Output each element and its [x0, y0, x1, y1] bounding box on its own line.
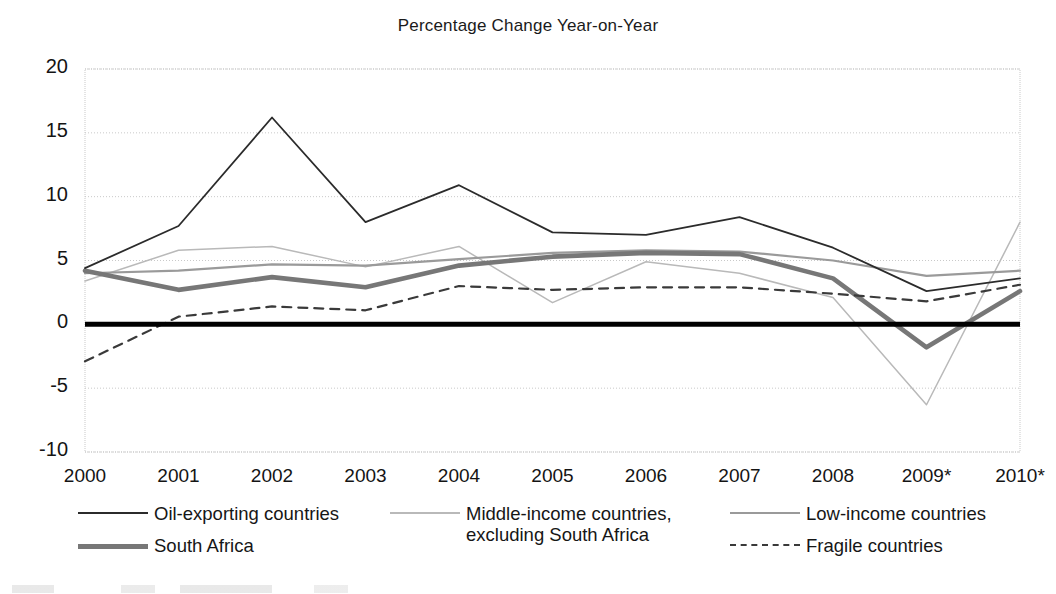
x-tick-label: 2010*: [977, 465, 1056, 487]
legend-label-low_income: Low-income countries: [806, 503, 986, 524]
legend-column-3: Low-income countriesFragile countries: [730, 503, 986, 567]
x-tick-label: 2003: [323, 465, 409, 487]
x-tick-label: 2008: [790, 465, 876, 487]
x-tick-label: 2000: [42, 465, 128, 487]
y-tick-label: 10: [6, 183, 68, 206]
legend-column-1: Oil-exporting countriesSouth Africa: [78, 503, 339, 567]
legend-item-low_income[interactable]: Low-income countries: [730, 503, 986, 531]
x-tick-label: 2007: [697, 465, 783, 487]
chart-figure: Percentage Change Year-on-Year 20151050-…: [0, 0, 1056, 594]
y-tick-label: 0: [6, 310, 68, 333]
chart-legend: Oil-exporting countriesSouth Africa Midd…: [60, 503, 1056, 573]
y-tick-label: -10: [6, 438, 68, 461]
page-footer-artifact: [12, 585, 432, 593]
legend-label-fragile: Fragile countries: [806, 535, 943, 556]
legend-item-oil_exporting[interactable]: Oil-exporting countries: [78, 503, 339, 531]
legend-item-fragile[interactable]: Fragile countries: [730, 535, 986, 563]
legend-label-middle_income_excl_sa: Middle-income countries, excluding South…: [466, 503, 672, 545]
x-tick-label: 2009*: [884, 465, 970, 487]
legend-column-2: Middle-income countries, excluding South…: [390, 503, 672, 535]
x-tick-label: 2006: [603, 465, 689, 487]
plot-area-border: [85, 69, 1020, 452]
x-tick-label: 2001: [136, 465, 222, 487]
legend-label-south_africa: South Africa: [154, 535, 254, 556]
legend-swatch-low_income: [730, 503, 800, 523]
legend-swatch-fragile: [730, 535, 800, 555]
x-tick-label: 2005: [510, 465, 596, 487]
legend-label-oil_exporting: Oil-exporting countries: [154, 503, 339, 524]
y-tick-label: 20: [6, 55, 68, 78]
x-tick-label: 2002: [229, 465, 315, 487]
legend-item-middle_income_excl_sa[interactable]: Middle-income countries, excluding South…: [390, 503, 672, 531]
legend-swatch-oil_exporting: [78, 503, 148, 523]
y-tick-label: 15: [6, 119, 68, 142]
legend-item-south_africa[interactable]: South Africa: [78, 535, 339, 563]
x-tick-label: 2004: [416, 465, 502, 487]
legend-swatch-south_africa: [78, 535, 148, 555]
y-tick-label: 5: [6, 247, 68, 270]
y-tick-label: -5: [6, 374, 68, 397]
legend-swatch-middle_income_excl_sa: [390, 503, 460, 523]
